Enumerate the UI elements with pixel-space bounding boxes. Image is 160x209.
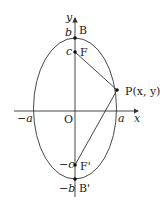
label-P: P(x, y) (125, 85, 160, 98)
label-neg-c: −c (59, 158, 74, 171)
segment-pf-prime (75, 90, 117, 165)
y-axis-label: y (65, 11, 73, 24)
label-a: a (118, 112, 125, 125)
point-f (73, 50, 77, 54)
diagram-canvas: y B b F c P(x, y) −a O a x −c F' −b B' (0, 0, 160, 209)
label-F: F (80, 46, 88, 59)
ellipse-diagram: y B b F c P(x, y) −a O a x −c F' −b B' (0, 0, 160, 209)
label-b: b (65, 26, 72, 39)
point-b (73, 36, 77, 40)
label-c: c (66, 45, 72, 58)
label-B-prime: B' (79, 182, 90, 195)
label-neg-a: −a (17, 112, 33, 125)
x-axis-label: x (134, 112, 141, 125)
point-b-prime (73, 177, 77, 181)
label-B: B (79, 24, 87, 37)
point-p (115, 88, 119, 92)
label-neg-b: −b (59, 182, 75, 195)
origin-label: O (64, 113, 73, 126)
label-F-prime: F' (80, 160, 91, 173)
